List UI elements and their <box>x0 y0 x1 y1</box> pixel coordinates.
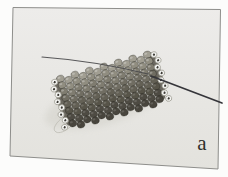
figure-label: a <box>190 132 214 154</box>
figure-photo-plate: a <box>0 0 228 177</box>
